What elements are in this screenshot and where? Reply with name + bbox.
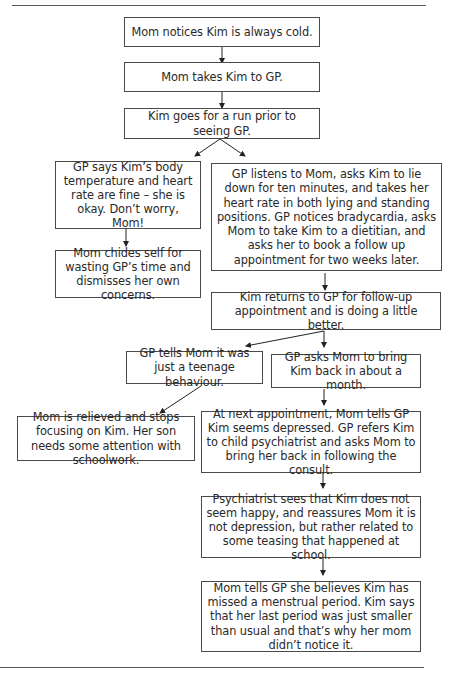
node-gp-listens: GP listens to Mom, asks Kim to lie down … xyxy=(211,163,442,271)
connector-arrows xyxy=(0,0,449,676)
node-mom-relieved: Mom is relieved and stops focusing on Ki… xyxy=(17,416,195,461)
node-next-appointment: At next appointment, Mom tells GP Kim se… xyxy=(201,411,421,473)
node-mom-chides-self: Mom chides self for wasting GP’s time an… xyxy=(55,250,201,298)
node-mom-notices-cold: Mom notices Kim is always cold. xyxy=(124,17,320,47)
node-bring-back-month: GP asks Mom to bring Kim back in about a… xyxy=(271,354,421,388)
node-gp-says-fine: GP says Kim’s body temperature and heart… xyxy=(55,161,201,229)
node-kim-goes-for-run: Kim goes for a run prior to seeing GP. xyxy=(124,108,320,139)
node-mom-takes-kim-to-gp: Mom takes Kim to GP. xyxy=(124,62,320,92)
node-missed-period: Mom tells GP she believes Kim has missed… xyxy=(201,581,421,652)
node-teenage-behaviour: GP tells Mom it was just a teenage behav… xyxy=(126,351,263,384)
node-psychiatrist-sees: Psychiatrist sees that Kim does not seem… xyxy=(201,496,421,558)
node-kim-returns: Kim returns to GP for follow-up appointm… xyxy=(211,292,441,330)
